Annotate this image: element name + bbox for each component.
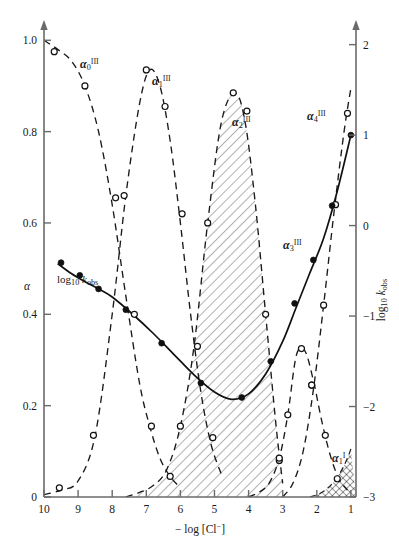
left-axis-title: α (24, 280, 31, 292)
right-tick-label: 1 (363, 129, 369, 141)
bottom-tick-label: 3 (280, 503, 286, 515)
right-tick-label: 0 (363, 220, 369, 232)
bottom-tick-label: 7 (143, 503, 149, 515)
right-tick-label: −2 (363, 401, 375, 413)
bottom-tick-label: 4 (246, 503, 252, 515)
bottom-axis-title-suffix: ] (221, 523, 225, 535)
left-tick-label: 1.0 (23, 34, 38, 46)
left-tick-label: 0.4 (23, 308, 38, 320)
right-tick-label: −3 (363, 491, 375, 503)
left-tick-label: 0.8 (23, 126, 38, 138)
right-tick-label: 2 (363, 39, 369, 51)
right-axis-title-log: log (375, 306, 388, 321)
bottom-tick-label: 2 (314, 503, 320, 515)
chart-svg: 00.20.40.60.81.0 −3−2−1012 10987654321 α… (0, 0, 399, 542)
left-tick-label: 0.2 (23, 400, 38, 412)
bottom-tick-label: 9 (75, 503, 81, 515)
left-tick-label: 0 (31, 491, 37, 503)
figure-container: 00.20.40.60.81.0 −3−2−1012 10987654321 α… (0, 0, 399, 542)
left-tick-label: 0.6 (23, 217, 38, 229)
bottom-axis-title-prefix: − log [Cl (175, 523, 217, 536)
bottom-tick-label: 5 (212, 503, 218, 515)
bottom-tick-label: 6 (178, 503, 184, 515)
right-axis-title-sub: 10 (380, 298, 389, 306)
right-axis-title-k-sub: obs (380, 279, 389, 290)
bottom-tick-label: 8 (109, 503, 115, 515)
bottom-tick-label: 10 (38, 503, 50, 515)
right-tick-label: −1 (363, 310, 375, 322)
bottom-tick-label: 1 (348, 503, 354, 515)
